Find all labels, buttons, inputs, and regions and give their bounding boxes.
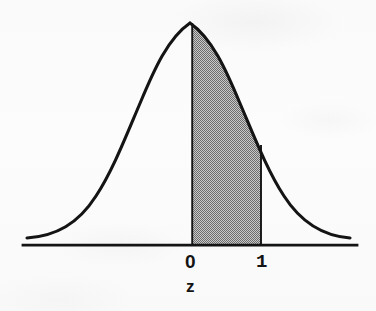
x-axis-tick-label-zero: 0 [185, 251, 196, 273]
normal-distribution-figure: 0 1 z [0, 0, 376, 311]
shaded-area-z0-to-z1 [192, 20, 261, 246]
x-axis-title: z [186, 277, 195, 297]
normal-curve-path [27, 23, 350, 238]
x-axis-tick-label-one: 1 [256, 251, 267, 273]
